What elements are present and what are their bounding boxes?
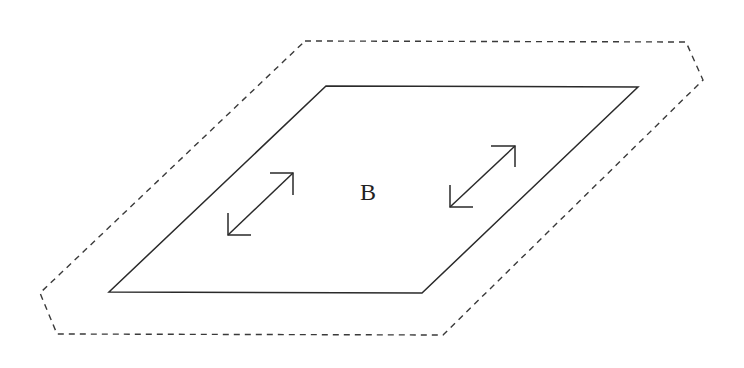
left-double-arrow-icon [228,173,293,235]
right-double-arrow-icon [450,146,515,207]
diagram-canvas: B [0,0,744,368]
region-label-b: B [360,179,376,205]
